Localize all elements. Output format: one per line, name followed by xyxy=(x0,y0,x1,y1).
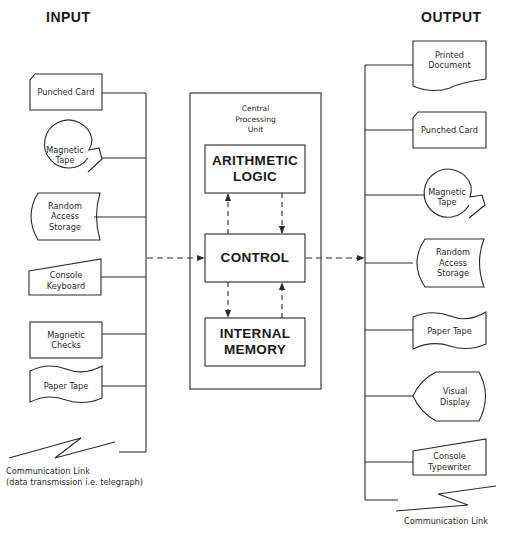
input-comm-link-label: Communication Link (data transmission i.… xyxy=(6,466,143,488)
arithmetic-logic-label: ARITHMETIC LOGIC xyxy=(205,145,305,193)
input-device-paper-tape: Paper Tape xyxy=(30,372,102,400)
input-device-console-keyboard: Console Keyboard xyxy=(30,266,102,295)
internal-memory-label: INTERNAL MEMORY xyxy=(205,318,305,366)
output-comm-link-label: Communication Link xyxy=(404,516,488,527)
input-device-random-access-storage: Random Access Storage xyxy=(32,193,98,240)
input-device-magnetic-checks: Magnetic Checks xyxy=(30,322,102,358)
output-device-paper-tape: Paper Tape xyxy=(413,317,486,345)
output-comm-link-zigzag xyxy=(396,486,496,511)
output-device-punched-card: Punched Card xyxy=(413,112,486,148)
output-device-printed-document: Printed Document xyxy=(413,45,486,75)
output-heading: OUTPUT xyxy=(421,9,482,25)
output-device-magnetic-tape: Magnetic Tape xyxy=(424,183,470,211)
control-label: CONTROL xyxy=(205,234,305,282)
output-device-console-typewriter: Console Typewriter xyxy=(413,448,486,475)
input-device-magnetic-tape: Magnetic Tape xyxy=(42,140,88,170)
output-device-visual-display: Visual Display xyxy=(425,372,485,421)
output-device-random-access-storage: Random Access Storage xyxy=(420,239,486,287)
input-comm-link-zigzag xyxy=(9,438,115,458)
cpu-title: Central Processing Unit xyxy=(190,104,321,136)
input-device-punched-card: Punched Card xyxy=(30,74,102,110)
input-heading: INPUT xyxy=(46,9,91,25)
